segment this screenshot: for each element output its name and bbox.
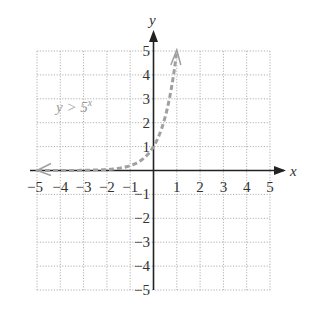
y-tick-label: 5 [143, 43, 151, 59]
y-tick-label: −4 [134, 258, 150, 274]
y-axis-label: y [147, 12, 156, 28]
y-tick-label: 3 [143, 91, 151, 107]
x-tick-label: 5 [266, 179, 274, 195]
x-tick-label: 2 [196, 179, 204, 195]
equation-label: y > 5x [54, 97, 93, 115]
x-tick-label: −4 [52, 179, 68, 195]
x-tick-label: 3 [220, 179, 228, 195]
coordinate-plane: x y −5−4−3−2−11234554321−1−2−3−4−5 y > 5… [0, 0, 310, 314]
y-tick-label: −1 [134, 186, 150, 202]
y-tick-label: 4 [143, 67, 151, 83]
x-axis-label: x [289, 163, 297, 179]
y-tick-label: 1 [143, 139, 151, 155]
y-tick-label: −3 [134, 234, 150, 250]
equation-superscript: x [87, 97, 93, 108]
y-tick-label: 2 [143, 115, 151, 131]
y-axis-arrow-icon [149, 30, 158, 42]
x-tick-label: −5 [27, 179, 43, 195]
x-tick-label: −2 [99, 179, 115, 195]
axes: x y [30, 12, 297, 290]
x-tick-label: 4 [243, 179, 251, 195]
x-tick-label: −3 [76, 179, 92, 195]
x-axis-arrow-icon [274, 166, 286, 175]
equation-main: y > 5 [54, 99, 88, 115]
y-tick-label: −2 [134, 210, 150, 226]
y-tick-label: −5 [134, 282, 150, 298]
x-tick-label: 1 [173, 179, 181, 195]
